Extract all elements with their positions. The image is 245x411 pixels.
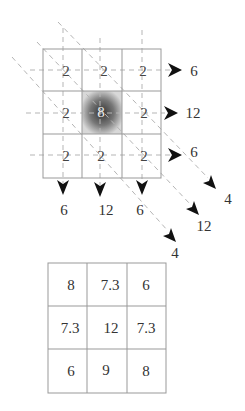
row-sum-0: 6: [190, 64, 198, 79]
bottom-cell-0-2: 6: [142, 278, 150, 293]
top-cell-2-0: 2: [62, 149, 70, 164]
bottom-cell-2-0: 6: [67, 364, 75, 379]
diagonal-sum-1: 12: [197, 219, 212, 234]
top-cell-1-2: 2: [140, 106, 148, 121]
bottom-cell-0-1: 7.3: [101, 278, 120, 293]
bottom-cell-2-2: 8: [142, 364, 150, 379]
bottom-cell-1-1: 12: [104, 321, 119, 336]
top-cell-1-0: 2: [62, 106, 70, 121]
bottom-cell-0-0: 8: [67, 278, 75, 293]
row-sum-1: 12: [186, 106, 201, 121]
top-cell-2-1: 2: [97, 149, 105, 164]
column-sum-0: 6: [60, 203, 68, 218]
bottom-cell-1-0: 7.3: [61, 321, 80, 336]
diagonal-sum-0: 4: [224, 192, 232, 207]
column-sum-1: 12: [99, 203, 114, 218]
row-sum-2: 6: [190, 145, 198, 160]
top-cell-0-0: 2: [62, 64, 70, 79]
top-cell-2-2: 2: [140, 149, 148, 164]
top-cell-0-2: 2: [139, 64, 147, 79]
top-cell-1-1: 8: [97, 105, 105, 120]
column-sum-2: 6: [136, 203, 144, 218]
bottom-cell-1-2: 7.3: [137, 321, 156, 336]
bottom-cell-2-1: 9: [102, 363, 110, 378]
top-cell-0-1: 2: [100, 64, 108, 79]
diagonal-sum-2: 4: [171, 246, 179, 261]
